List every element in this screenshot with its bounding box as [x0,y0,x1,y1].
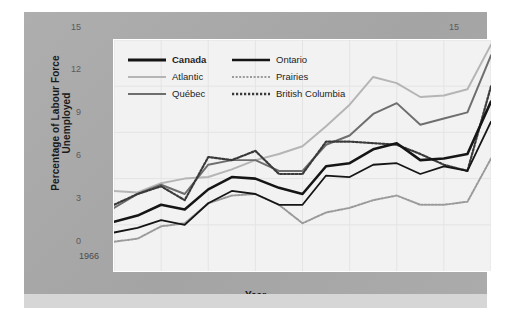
x-tick-1966: 1966 [72,252,106,261]
legend-label-prairies: Prairies [276,72,308,82]
legend-item-british-columbia[interactable]: British Columbia [232,89,356,99]
line-swatch-dotted-dark-icon [232,89,270,99]
y-tick-left-9: 9 [61,108,81,117]
line-swatch-solid-midgray-icon [128,89,166,99]
legend: Canada Ontario Atlantic [128,51,388,102]
legend-item-quebec[interactable]: Québec [128,89,232,99]
legend-label-canada: Canada [172,55,206,65]
chart-panel: Percentage of Labour Force Unemployed 15… [24,12,487,294]
y-axis-title: Percentage of Labour Force Unemployed [50,38,72,208]
y-tick-left-12: 12 [61,65,81,74]
chart-screenshot: Percentage of Labour Force Unemployed 15… [0,0,511,320]
line-swatch-dotted-gray-icon [232,72,270,82]
legend-label-ontario: Ontario [276,55,307,65]
legend-label-british-columbia: British Columbia [276,89,345,99]
line-swatch-solid-black-icon [232,55,270,65]
y-tick-left-6: 6 [61,151,81,160]
plot-area: Canada Ontario Atlantic [113,39,492,272]
legend-label-atlantic: Atlantic [172,72,203,82]
legend-item-prairies[interactable]: Prairies [232,72,356,82]
y-tick-left-15: 15 [61,23,81,32]
line-swatch-solid-black-icon [128,55,166,65]
y-tick-left-0: 0 [61,237,81,246]
y-tick-right-15: 15 [449,23,469,32]
panel-under-strip [24,294,487,308]
legend-item-atlantic[interactable]: Atlantic [128,72,232,82]
y-tick-left-3: 3 [61,194,81,203]
legend-item-canada[interactable]: Canada [128,55,232,65]
legend-item-ontario[interactable]: Ontario [232,55,356,65]
legend-label-quebec: Québec [172,89,205,99]
line-swatch-solid-lightgray-icon [128,72,166,82]
